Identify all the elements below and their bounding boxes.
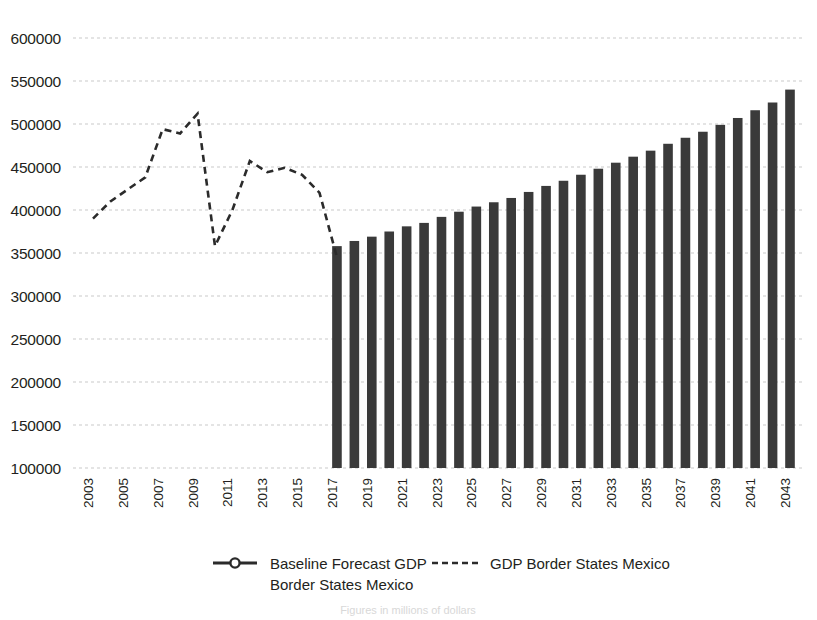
legend-label-baseline-forecast-line1: Baseline Forecast GDP xyxy=(270,555,427,572)
y-axis-tick-label: 550000 xyxy=(10,73,61,90)
bar-series-group xyxy=(332,90,795,468)
bar-2033 xyxy=(611,163,621,468)
legend-entry-gdp-border-states: GDP Border States Mexico xyxy=(432,555,670,572)
x-axis-tick-label-2035: 2035 xyxy=(639,478,654,508)
x-axis-tick-label-2011: 2011 xyxy=(220,478,235,507)
bar-2031 xyxy=(576,175,586,468)
bar-2036 xyxy=(663,144,673,468)
bar-2034 xyxy=(628,157,638,468)
bar-2024 xyxy=(454,212,464,468)
bar-2029 xyxy=(541,186,551,468)
x-axis-tick-label-2041: 2041 xyxy=(743,478,758,508)
y-axis-tick-labels: 1000001500002000002500003000003500004000… xyxy=(10,30,61,477)
x-axis-tick-label-2037: 2037 xyxy=(673,478,688,508)
gdp-forecast-chart: 1000001500002000002500003000003500004000… xyxy=(0,0,817,620)
line-series-group xyxy=(93,114,337,258)
y-axis-tick-label: 400000 xyxy=(10,202,61,219)
x-axis-tick-labels: 2003200520072009201120132015201720192021… xyxy=(81,478,793,508)
bar-2019 xyxy=(367,237,377,468)
y-axis-tick-label: 350000 xyxy=(10,245,61,262)
y-axis-tick-label: 150000 xyxy=(10,417,61,434)
x-axis-tick-label-2033: 2033 xyxy=(604,478,619,508)
x-axis-tick-label-2003: 2003 xyxy=(81,478,96,508)
bar-2023 xyxy=(437,217,447,468)
x-axis-tick-label-2029: 2029 xyxy=(534,478,549,508)
y-axis-tick-label: 250000 xyxy=(10,331,61,348)
bar-2018 xyxy=(350,241,360,468)
x-axis-tick-label-2021: 2021 xyxy=(395,478,410,508)
bar-2021 xyxy=(402,226,412,468)
bar-2028 xyxy=(524,192,534,468)
x-axis-tick-label-2017: 2017 xyxy=(325,478,340,508)
x-axis-tick-label-2009: 2009 xyxy=(186,478,201,508)
bar-2038 xyxy=(698,132,708,468)
y-axis-tick-label: 600000 xyxy=(10,30,61,47)
y-axis-tick-label: 100000 xyxy=(10,460,61,477)
y-axis-tick-label: 300000 xyxy=(10,288,61,305)
x-axis-tick-label-2013: 2013 xyxy=(255,478,270,508)
bar-2039 xyxy=(716,125,726,468)
bar-2040 xyxy=(733,118,743,468)
chart-legend: Baseline Forecast GDP Border States Mexi… xyxy=(213,555,670,593)
legend-label-gdp-border-states: GDP Border States Mexico xyxy=(490,555,670,572)
bar-2022 xyxy=(419,223,429,468)
bar-2037 xyxy=(681,138,691,468)
bar-2026 xyxy=(489,202,499,468)
x-axis-tick-label-2005: 2005 xyxy=(116,478,131,508)
x-axis-tick-label-2027: 2027 xyxy=(499,478,514,508)
y-axis-tick-label: 450000 xyxy=(10,159,61,176)
x-axis-tick-label-2039: 2039 xyxy=(708,478,723,508)
y-axis-tick-label: 200000 xyxy=(10,374,61,391)
x-axis-tick-label-2023: 2023 xyxy=(430,478,445,508)
x-axis-tick-label-2025: 2025 xyxy=(464,478,479,508)
x-axis-tick-label-2043: 2043 xyxy=(778,478,793,508)
x-axis-tick-label-2031: 2031 xyxy=(569,478,584,508)
x-axis-tick-label-2015: 2015 xyxy=(290,478,305,508)
bar-2042 xyxy=(768,103,778,469)
bar-2017 xyxy=(332,246,342,468)
y-axis-tick-label: 500000 xyxy=(10,116,61,133)
x-axis-tick-label-2019: 2019 xyxy=(360,478,375,508)
bar-2041 xyxy=(750,110,760,468)
bar-2020 xyxy=(384,232,394,469)
bar-2025 xyxy=(472,207,482,468)
chart-caption: Figures in millions of dollars xyxy=(340,604,476,616)
bar-2027 xyxy=(506,198,516,468)
x-axis-tick-label-2007: 2007 xyxy=(151,478,166,508)
bar-2030 xyxy=(559,181,569,468)
bar-2043 xyxy=(785,90,795,468)
bar-2032 xyxy=(594,169,604,468)
chart-canvas: 1000001500002000002500003000003500004000… xyxy=(0,0,817,620)
legend-label-baseline-forecast-line2: Border States Mexico xyxy=(270,576,413,593)
legend-entry-baseline-forecast: Baseline Forecast GDP Border States Mexi… xyxy=(213,555,427,593)
legend-circle-marker-icon xyxy=(230,558,239,567)
gdp-history-dashed-line xyxy=(93,114,337,258)
bar-2035 xyxy=(646,151,656,468)
